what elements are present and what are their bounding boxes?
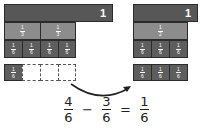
fraction-four-sixths: 46 [64,95,73,124]
fraction-one-sixth: 16 [140,95,149,124]
minus-sign: − [82,102,93,117]
subtraction-equation: 46 − 36 = 16 [64,95,149,124]
equals-sign: = [120,102,131,117]
fraction-three-sixths: 36 [102,95,111,124]
